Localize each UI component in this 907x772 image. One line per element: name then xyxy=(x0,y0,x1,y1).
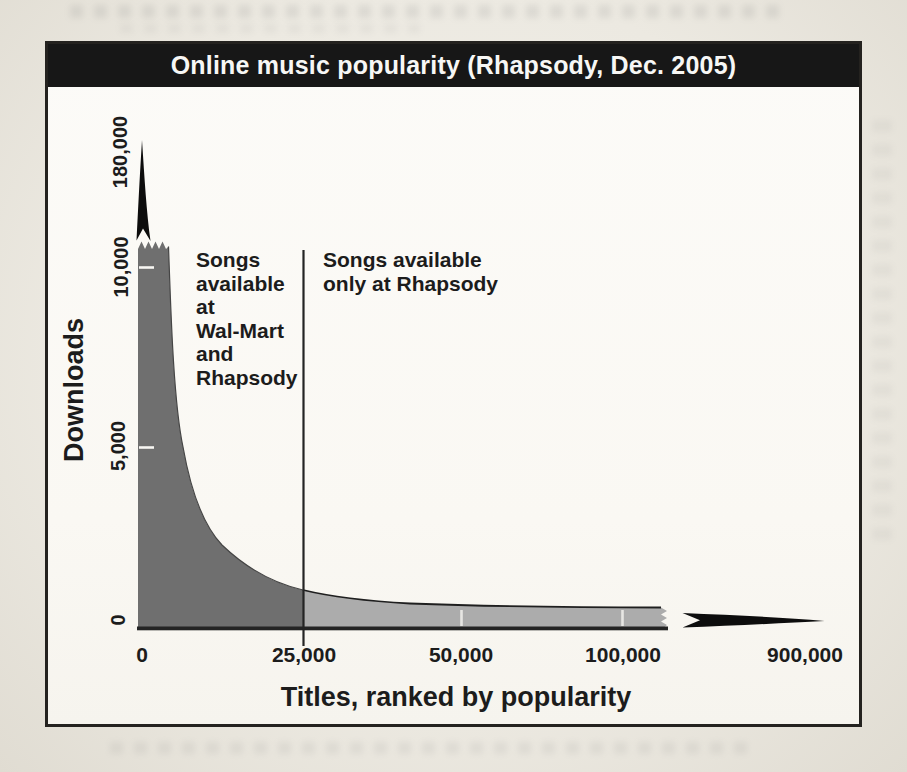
x-tick-label-0: 0 xyxy=(136,643,148,667)
y-tick-label-0: 0 xyxy=(107,614,130,625)
figure-title-bar: Online music popularity (Rhapsody, Dec. … xyxy=(48,44,859,87)
figure-title: Online music popularity (Rhapsody, Dec. … xyxy=(171,51,737,80)
book-page: Online music popularity (Rhapsody, Dec. … xyxy=(0,0,907,772)
annotation-walmart-and-rhapsody: Songs available at Wal-Mart and Rhapsody xyxy=(196,248,298,389)
x-tick-label-900000: 900,000 xyxy=(767,643,843,667)
y-tick-label-10000: 10,000 xyxy=(110,236,133,297)
annotation-only-rhapsody: Songs available only at Rhapsody xyxy=(323,248,498,295)
print-bleed-smudge xyxy=(70,5,790,18)
x-tick-label-100000: 100,000 xyxy=(585,643,661,667)
x-tick-label-50000: 50,000 xyxy=(429,643,493,667)
x-axis-title: Titles, ranked by popularity xyxy=(281,682,632,713)
y-tick-label-180000: 180,000 xyxy=(109,116,132,188)
x-tick-label-25000: 25,000 xyxy=(272,643,336,667)
print-bleed-smudge xyxy=(110,742,750,754)
print-bleed-smudge xyxy=(872,120,892,540)
print-bleed-smudge xyxy=(120,24,420,33)
y-tick-label-5000: 5,000 xyxy=(107,421,130,471)
y-axis-title: Downloads xyxy=(59,318,90,462)
figure-frame: Online music popularity (Rhapsody, Dec. … xyxy=(45,41,862,727)
